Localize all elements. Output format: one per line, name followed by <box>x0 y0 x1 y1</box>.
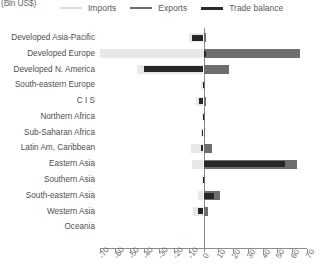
legend-label-exports: Exports <box>158 3 187 13</box>
bar-trade-balance <box>192 35 204 41</box>
bar-exports <box>204 33 206 42</box>
bar-exports <box>204 65 229 74</box>
x-tick-label: 50 <box>274 248 286 260</box>
category-label: South-eastern Europe <box>0 77 100 93</box>
x-tick-label: 40 <box>260 248 272 260</box>
bar-trade-balance <box>199 98 203 104</box>
bar-trade-balance <box>144 66 203 72</box>
bar-trade-balance <box>198 208 204 214</box>
category-label: Developed Europe <box>0 46 100 62</box>
chart-row: South-eastern Asia <box>100 188 307 204</box>
category-label: South-eastern Asia <box>0 188 100 204</box>
category-label: Developed N. America <box>0 62 100 78</box>
bar-trade-balance <box>201 145 204 151</box>
chart-row: Western Asia <box>100 204 307 220</box>
x-tick-label: 60 <box>289 248 301 260</box>
chart-row: Northern Africa <box>100 109 307 125</box>
bar-trade-balance <box>203 177 204 183</box>
units-label: (Bln US$) <box>1 0 36 8</box>
chart-row: Eastern Asia <box>100 156 307 172</box>
bar-imports <box>100 49 204 58</box>
category-label: Oceania <box>0 219 100 235</box>
chart-row: C I S <box>100 93 307 109</box>
bar-trade-balance <box>202 130 203 136</box>
chart-legend: Imports Exports Trade balance <box>60 3 283 13</box>
legend-label-imports: Imports <box>88 3 116 13</box>
x-tick-label: 70 <box>304 248 316 260</box>
bar-trade-balance <box>203 114 204 120</box>
x-tick-label: 30 <box>245 248 257 260</box>
bar-trade-balance <box>204 51 207 57</box>
chart-row: Latin Am, Caribbean <box>100 140 307 156</box>
chart-row: Developed N. America <box>100 62 307 78</box>
bar-exports <box>204 97 207 106</box>
bar-exports <box>204 207 208 216</box>
imports-swatch-icon <box>60 7 82 9</box>
plot-area: Developed Asia-PacificDeveloped EuropeDe… <box>100 28 307 249</box>
bar-trade-balance <box>203 82 204 88</box>
category-label: Northern Africa <box>0 109 100 125</box>
bar-trade-balance <box>204 193 214 199</box>
category-label: Sub-Saharan Africa <box>0 125 100 141</box>
legend-item-exports: Exports <box>130 3 187 13</box>
category-label: C I S <box>0 93 100 109</box>
bar-imports <box>192 160 204 169</box>
bar-exports <box>204 49 300 58</box>
chart-row: Developed Europe <box>100 46 307 62</box>
x-tick-label: 20 <box>230 248 242 260</box>
category-label: Eastern Asia <box>0 156 100 172</box>
legend-item-balance: Trade balance <box>201 3 283 13</box>
exports-swatch-icon <box>130 7 152 9</box>
chart-row: Developed Asia-Pacific <box>100 30 307 46</box>
chart-row: Oceania <box>100 219 307 235</box>
x-tick-label: 10 <box>215 248 227 260</box>
trade-balance-chart: (Bln US$) Imports Exports Trade balance … <box>0 0 320 279</box>
category-label: Western Asia <box>0 204 100 220</box>
chart-row: Sub-Saharan Africa <box>100 125 307 141</box>
category-label: Developed Asia-Pacific <box>0 30 100 46</box>
chart-row: Southern Asia <box>100 172 307 188</box>
bar-exports <box>204 128 205 137</box>
legend-label-trade-balance: Trade balance <box>229 3 283 13</box>
bar-exports <box>204 144 213 153</box>
trade-balance-swatch-icon <box>201 7 223 10</box>
chart-row: South-eastern Europe <box>100 77 307 93</box>
category-label: Latin Am, Caribbean <box>0 140 100 156</box>
legend-item-imports: Imports <box>60 3 116 13</box>
category-label: Southern Asia <box>0 172 100 188</box>
x-axis-ticks: -70-60-50-40-30-20-10010203040506070 <box>100 249 307 279</box>
x-tick-label: 0 <box>201 251 211 260</box>
bar-trade-balance <box>204 161 285 167</box>
